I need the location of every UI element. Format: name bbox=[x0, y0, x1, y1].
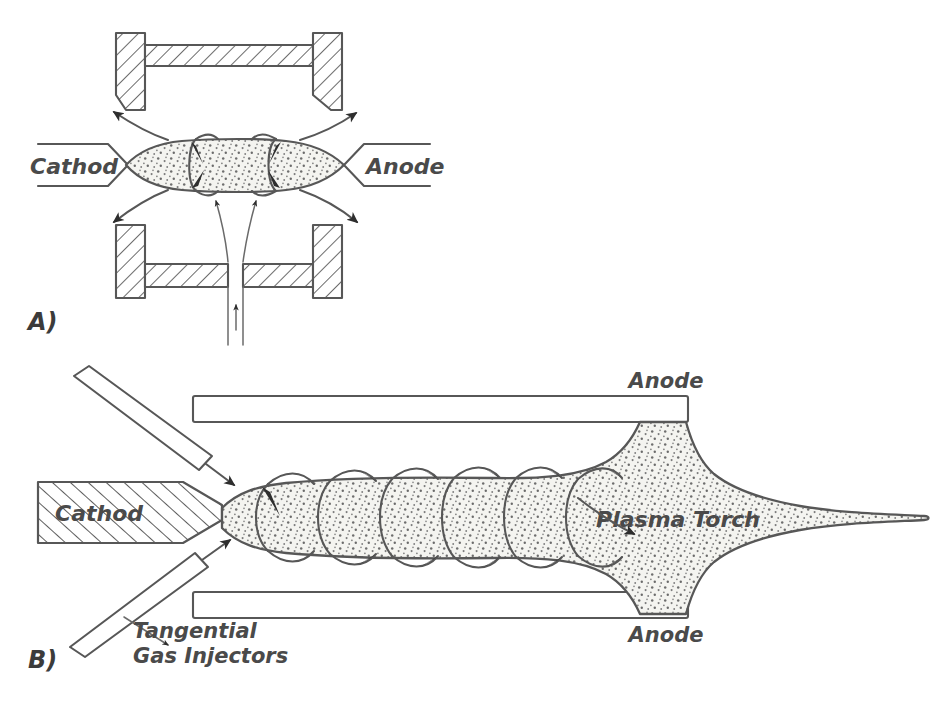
panel-b-anode-top-label: Anode bbox=[627, 369, 704, 393]
chamber-wall-upper-plate bbox=[145, 45, 313, 66]
panel-b-plasma-label: Plasma Torch bbox=[596, 507, 760, 532]
panel-b-cathode: Cathod bbox=[38, 482, 222, 543]
chamber-wall-lower-plate-right bbox=[243, 264, 313, 287]
panel-a-anode-label: Anode bbox=[364, 154, 445, 179]
panel-a-cathode-label: Cathod bbox=[30, 154, 118, 179]
chamber-wall-upper-left-post bbox=[116, 33, 145, 110]
panel-b-injector-label-line2: Gas Injectors bbox=[133, 644, 288, 668]
chamber-wall-lower-plate-left bbox=[145, 264, 228, 287]
panel-b-anode-bottom-label: Anode bbox=[627, 623, 704, 647]
panel-b-injector-label-line1: Tangential bbox=[133, 619, 258, 643]
anode-bar-top bbox=[193, 396, 688, 422]
chamber-wall-lower-right-post bbox=[313, 225, 342, 298]
panel-b-key: B) bbox=[28, 646, 57, 674]
chamber-wall-upper-right-post bbox=[313, 33, 342, 110]
plasma-torch-figure: Cathod Anode bbox=[0, 0, 950, 701]
chamber-wall-lower-left-post bbox=[116, 225, 145, 298]
panel-a-plasma-column bbox=[126, 139, 344, 192]
figure-canvas: Cathod Anode bbox=[0, 0, 950, 701]
anode-bar-bottom bbox=[193, 592, 688, 618]
plasma-column-body bbox=[126, 139, 344, 192]
panel-b-cathode-label: Cathod bbox=[55, 501, 143, 526]
panel-a-key: A) bbox=[26, 308, 58, 336]
